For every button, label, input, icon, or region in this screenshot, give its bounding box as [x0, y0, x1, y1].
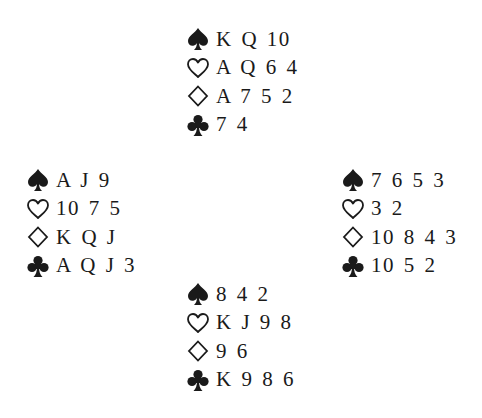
club-icon [341, 254, 365, 278]
north-hearts-cards: A Q 6 4 [216, 57, 298, 78]
spade-icon [186, 27, 210, 51]
east-spades-row: 7 6 5 3 [341, 166, 457, 195]
north-clubs-row: 7 4 [186, 111, 298, 140]
diamond-outline-icon [341, 225, 365, 249]
west-spades-row: A J 9 [26, 166, 136, 195]
west-clubs-row: A Q J 3 [26, 252, 136, 281]
east-hand: 7 6 5 3 3 2 10 8 4 3 10 5 2 [341, 166, 457, 280]
south-clubs-row: K 9 8 6 [186, 366, 295, 395]
west-hearts-cards: 10 7 5 [56, 198, 122, 219]
north-diamonds-row: A 7 5 2 [186, 82, 298, 111]
north-hand: K Q 10 A Q 6 4 A 7 5 2 7 4 [186, 25, 298, 139]
diamond-outline-icon [186, 339, 210, 363]
west-diamonds-row: K Q J [26, 223, 136, 252]
west-diamonds-cards: K Q J [56, 227, 117, 248]
spade-icon [186, 282, 210, 306]
south-hand: 8 4 2 K J 9 8 9 6 K 9 8 6 [186, 280, 295, 394]
east-hearts-row: 3 2 [341, 195, 457, 224]
north-hearts-row: A Q 6 4 [186, 54, 298, 83]
spade-icon [26, 168, 50, 192]
diamond-outline-icon [26, 225, 50, 249]
west-spades-cards: A J 9 [56, 170, 111, 191]
south-hearts-cards: K J 9 8 [216, 312, 293, 333]
diamond-outline-icon [186, 84, 210, 108]
east-hearts-cards: 3 2 [371, 198, 404, 219]
south-spades-row: 8 4 2 [186, 280, 295, 309]
east-clubs-row: 10 5 2 [341, 252, 457, 281]
west-clubs-cards: A Q J 3 [56, 255, 136, 276]
south-spades-cards: 8 4 2 [216, 284, 270, 305]
east-diamonds-cards: 10 8 4 3 [371, 227, 457, 248]
club-icon [26, 254, 50, 278]
heart-outline-icon [341, 197, 365, 221]
south-clubs-cards: K 9 8 6 [216, 369, 295, 390]
east-clubs-cards: 10 5 2 [371, 255, 437, 276]
north-diamonds-cards: A 7 5 2 [216, 86, 294, 107]
north-clubs-cards: 7 4 [216, 114, 249, 135]
west-hearts-row: 10 7 5 [26, 195, 136, 224]
west-hand: A J 9 10 7 5 K Q J A Q J 3 [26, 166, 136, 280]
north-spades-row: K Q 10 [186, 25, 298, 54]
heart-outline-icon [186, 311, 210, 335]
north-spades-cards: K Q 10 [216, 29, 291, 50]
south-diamonds-cards: 9 6 [216, 341, 249, 362]
east-diamonds-row: 10 8 4 3 [341, 223, 457, 252]
heart-outline-icon [186, 56, 210, 80]
club-icon [186, 113, 210, 137]
south-hearts-row: K J 9 8 [186, 309, 295, 338]
south-diamonds-row: 9 6 [186, 337, 295, 366]
heart-outline-icon [26, 197, 50, 221]
club-icon [186, 368, 210, 392]
east-spades-cards: 7 6 5 3 [371, 170, 445, 191]
spade-icon [341, 168, 365, 192]
